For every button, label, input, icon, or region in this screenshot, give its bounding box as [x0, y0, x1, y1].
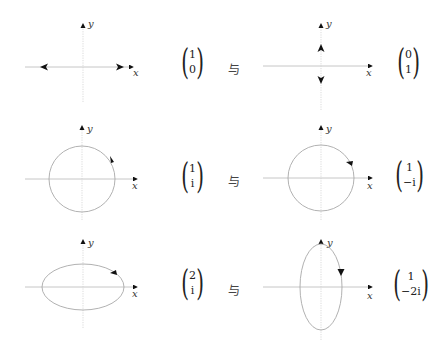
- down-arrow-icon: [318, 76, 325, 84]
- right-paren: ): [421, 266, 429, 302]
- vector-entry-1: 2: [189, 268, 196, 283]
- x-axis-label: x: [367, 180, 373, 191]
- plot-row1-right: x y: [263, 18, 372, 110]
- y-axis-arrow-icon: [80, 125, 85, 130]
- right-paren: ): [196, 265, 204, 301]
- rotation-arrow-icon: [346, 161, 353, 166]
- left-paren: (: [393, 266, 401, 302]
- x-axis-label: x: [366, 67, 372, 78]
- vector-entry-2: 1: [405, 62, 412, 77]
- vector-row3-right: ( 1 −2i ): [390, 266, 432, 302]
- vector-entry-2: −i: [403, 175, 416, 190]
- y-axis-arrow-icon: [81, 239, 86, 244]
- x-axis-label: x: [132, 180, 138, 191]
- vector-entry-1: 1: [406, 160, 413, 175]
- y-axis-label: y: [326, 237, 333, 248]
- vector-entry-2: i: [191, 176, 195, 191]
- y-axis-label: y: [87, 237, 94, 248]
- y-axis-arrow-icon: [81, 23, 86, 28]
- y-axis-label: y: [87, 18, 94, 29]
- right-paren: ): [196, 44, 204, 80]
- vector-entry-1: 0: [405, 47, 412, 62]
- vector-row2-right: ( 1 −i ): [392, 157, 427, 193]
- plot-row2-left: x y: [25, 123, 138, 220]
- y-axis-arrow-icon: [319, 239, 324, 244]
- left-paren: (: [395, 157, 403, 193]
- x-axis-label: x: [132, 288, 138, 299]
- left-paren: (: [181, 265, 189, 301]
- vector-entry-1: 1: [189, 47, 196, 62]
- rotation-arrow-icon: [338, 269, 345, 276]
- x-axis-label: x: [133, 67, 139, 78]
- left-paren: (: [181, 158, 189, 194]
- x-axis-label: x: [367, 290, 373, 301]
- plot-row3-left: x y: [25, 237, 138, 328]
- right-paren: ): [416, 157, 424, 193]
- y-axis-arrow-icon: [319, 125, 324, 130]
- vector-entry-2: 0: [189, 62, 196, 77]
- y-axis-label: y: [325, 123, 332, 134]
- vector-row1-left: ( 1 0 ): [178, 44, 207, 80]
- y-axis-label: y: [325, 18, 332, 29]
- right-paren: ): [196, 158, 204, 194]
- vector-entry-2: −2i: [401, 284, 421, 299]
- vector-entry-1: 1: [407, 269, 414, 284]
- conjunction-row1: 与: [228, 60, 240, 77]
- vector-entry-1: 1: [189, 161, 196, 176]
- polarization-diagram: x y x y x y x y x y: [0, 0, 439, 350]
- plot-row2-right: x y: [263, 123, 373, 220]
- plot-row3-right: x y: [263, 237, 373, 340]
- plot-row1-left: x y: [25, 18, 139, 102]
- vector-row3-left: ( 2 i ): [178, 265, 207, 301]
- vector-entry-2: i: [191, 283, 195, 298]
- vector-row1-right: ( 0 1 ): [394, 44, 423, 80]
- y-axis-arrow-icon: [319, 23, 324, 28]
- left-paren: (: [181, 44, 189, 80]
- left-paren: (: [397, 44, 405, 80]
- conjunction-row3: 与: [228, 281, 240, 298]
- rotation-arrow-icon: [110, 270, 117, 275]
- y-axis-label: y: [86, 123, 93, 134]
- vector-row2-left: ( 1 i ): [178, 158, 207, 194]
- right-paren: ): [412, 44, 420, 80]
- up-arrow-icon: [318, 44, 325, 52]
- conjunction-row2: 与: [228, 172, 240, 189]
